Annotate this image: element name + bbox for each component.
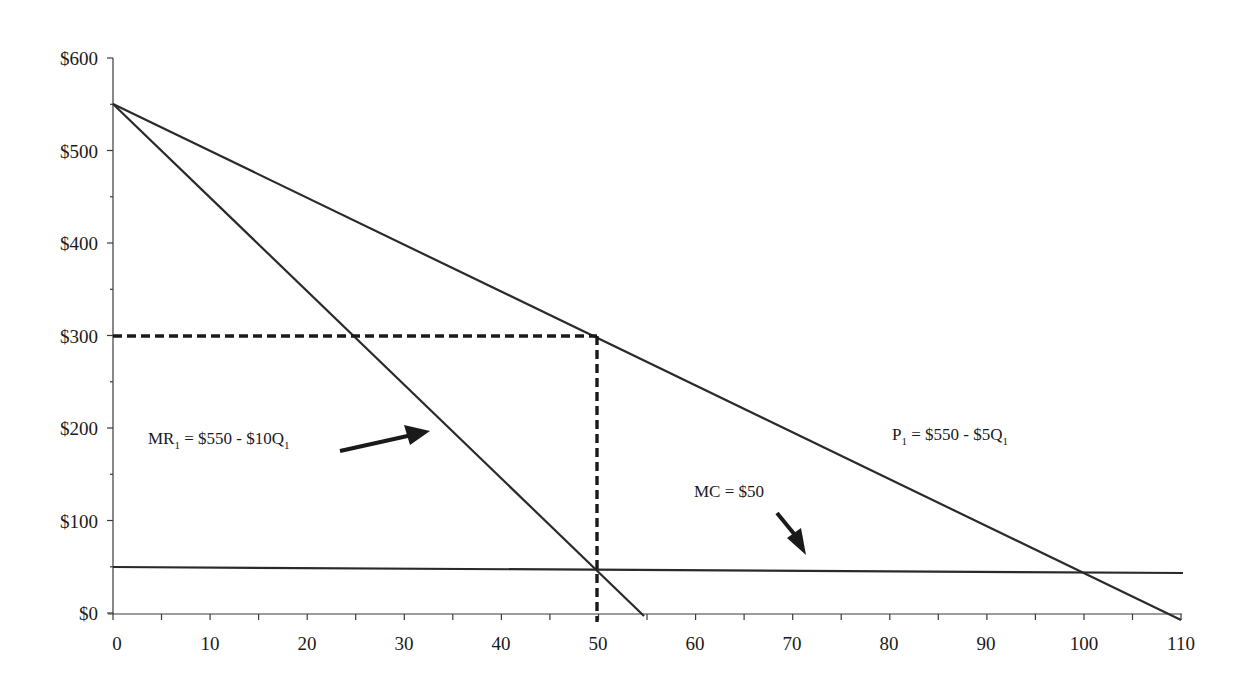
chart-svg: $0 $100 $200 $300 $400 $500 $600	[0, 0, 1235, 698]
x-label-80: 80	[880, 633, 899, 654]
x-label-90: 90	[977, 633, 996, 654]
y-ticks	[107, 58, 113, 613]
demand-curve	[113, 104, 1181, 620]
y-label-500: $500	[60, 141, 98, 162]
mr-label: MR1 = $550 - $10Q1	[148, 429, 290, 451]
x-label-70: 70	[783, 633, 802, 654]
marginal-cost-line	[113, 567, 1183, 573]
y-label-0: $0	[79, 603, 98, 624]
economics-chart: $0 $100 $200 $300 $400 $500 $600	[0, 0, 1235, 698]
x-label-50: 50	[589, 633, 608, 654]
mc-label: MC = $50	[694, 482, 764, 501]
y-tick-labels: $0 $100 $200 $300 $400 $500 $600	[60, 48, 98, 624]
y-label-400: $400	[60, 233, 98, 254]
x-label-30: 30	[395, 633, 414, 654]
x-ticks	[113, 614, 1181, 620]
mr-arrow-icon	[340, 425, 430, 451]
x-label-20: 20	[298, 633, 317, 654]
x-label-110: 110	[1167, 633, 1195, 654]
x-label-40: 40	[492, 633, 511, 654]
demand-label: P1 = $550 - $5Q1	[892, 425, 1008, 447]
x-label-0: 0	[112, 633, 122, 654]
y-label-300: $300	[60, 326, 98, 347]
x-tick-labels: 0 10 20 30 40 50 60 70 80 90 100 110	[112, 633, 1195, 654]
y-label-100: $100	[60, 511, 98, 532]
x-label-100: 100	[1070, 633, 1099, 654]
x-label-60: 60	[686, 633, 705, 654]
y-label-200: $200	[60, 418, 98, 439]
y-label-600: $600	[60, 48, 98, 69]
mc-arrow-icon	[777, 513, 806, 555]
x-label-10: 10	[201, 633, 220, 654]
marginal-revenue-curve	[113, 104, 644, 616]
